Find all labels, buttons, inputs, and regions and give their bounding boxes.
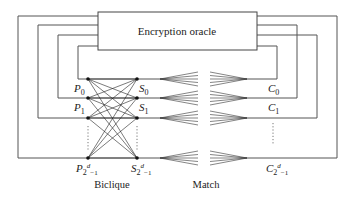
loop-row-0 (78, 46, 160, 79)
node-s2 (135, 116, 139, 120)
label-s0: S0 (139, 82, 149, 97)
fan-row-2 (160, 111, 247, 125)
state-labels: S0 S1 S2d−1 (131, 82, 152, 177)
match-fans (160, 72, 247, 165)
node-p1 (86, 96, 90, 100)
biclique-caption: Biclique (94, 179, 130, 190)
node-p2 (86, 116, 90, 120)
label-plast: P2d−1 (75, 162, 98, 177)
loop-row-0-right (247, 46, 277, 79)
label-clast: C2d−1 (266, 162, 289, 177)
fan-row-0 (160, 72, 247, 86)
loop-row-last-right (247, 16, 337, 158)
node-p0 (86, 77, 90, 81)
label-s1: S1 (139, 101, 149, 116)
ciphertext-labels: C0 C1 C2d−1 (266, 82, 289, 177)
fan-row-1 (160, 91, 247, 105)
fan-row-last (160, 151, 247, 165)
label-p1: P1 (73, 101, 85, 116)
oracle-label: Encryption oracle (138, 25, 217, 37)
node-s0 (135, 77, 139, 81)
label-c1: C1 (268, 101, 279, 116)
label-c0: C0 (268, 82, 279, 97)
encryption-oracle: Encryption oracle (98, 12, 257, 50)
match-caption: Match (193, 179, 221, 190)
plaintext-labels: P0 P1 P2d−1 (73, 82, 98, 177)
biclique-attack-diagram: Encryption oracle (0, 0, 356, 201)
node-s1 (135, 96, 139, 100)
node-slast (135, 156, 139, 160)
label-p0: P0 (73, 82, 85, 97)
label-slast: S2d−1 (131, 162, 152, 177)
node-plast (86, 156, 90, 160)
